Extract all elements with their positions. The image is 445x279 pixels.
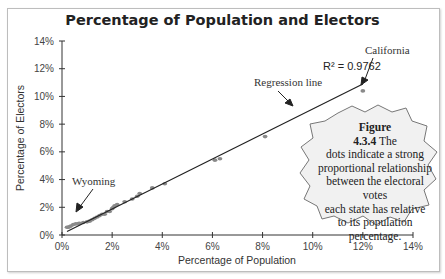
callout-heading: Figure [359,121,391,133]
callout-figure-number: 4.3.4 [353,135,376,147]
callout-line: percentage. [313,230,437,244]
x-tick-label: 8% [255,241,270,252]
r-squared-label: R² = 0.9762 [323,60,381,72]
y-tick-label: 14% [34,36,54,47]
y-tick-label: 8% [40,119,55,130]
callout-line: to its population [313,216,437,230]
x-axis-label: Percentage of Population [178,254,296,266]
callout-line: proportional relationship [313,162,437,176]
y-tick-label: 12% [34,63,54,74]
x-tick-label: 6% [205,241,220,252]
y-tick-label: 4% [40,174,55,185]
x-tick-label: 4% [155,241,170,252]
y-tick-label: 0% [40,230,55,241]
y-tick-label: 2% [40,202,55,213]
y-tick-label: 6% [40,146,55,157]
data-point [263,135,268,139]
california-label: California [365,44,410,56]
x-tick-label: 0% [55,241,70,252]
callout-line: dots indicate a strong [313,148,437,162]
data-point [218,157,223,161]
wyoming-label: Wyoming [72,175,116,187]
x-tick-label: 2% [105,241,120,252]
y-axis-label: Percentage of Electors [14,85,26,191]
callout-text: Figure 4.3.4 The dots indicate a strong … [313,121,437,243]
callout-line: each state has relative [313,203,437,217]
y-tick-label: 10% [34,91,54,102]
callout-line: The [376,135,397,147]
regression-line-label: Regression line [254,76,322,88]
callout-line: between the electoral votes [313,175,437,202]
data-point [360,89,365,93]
